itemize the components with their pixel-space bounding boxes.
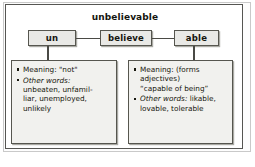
detail-continuation-line: “capable of being” xyxy=(140,84,228,93)
diagram-border: unbelievable un believe able Meaning: "n… xyxy=(5,4,243,149)
detail-continuation-line: unlikely xyxy=(23,104,112,113)
detail-value: likable, xyxy=(187,94,215,103)
word-part-label-prefix: un xyxy=(46,33,59,43)
connector-suffix-to-detail xyxy=(193,46,195,60)
detail-label: Meaning: xyxy=(140,65,174,74)
detail-label: Meaning: xyxy=(23,65,57,74)
detail-continuation-line: adjectives) xyxy=(140,74,228,83)
diagram-title: unbelievable xyxy=(6,12,244,23)
word-part-label-root: believe xyxy=(108,33,144,43)
detail-box-suffix: Meaning: (forms adjectives) “capable of … xyxy=(128,60,233,144)
detail-value: "not" xyxy=(57,65,78,74)
connector-root-to-suffix xyxy=(152,38,174,40)
detail-continuation-line: lovable, tolerable xyxy=(140,104,228,113)
detail-box-prefix: Meaning: "not" Other words: unbeaten, un… xyxy=(11,60,117,144)
list-item: Meaning: (forms adjectives) “capable of … xyxy=(133,65,228,93)
detail-label: Other words: xyxy=(140,94,187,103)
detail-list-prefix: Meaning: "not" Other words: unbeaten, un… xyxy=(16,65,112,113)
list-item: Other words: likable, lovable, tolerable xyxy=(133,94,228,113)
connector-prefix-to-root xyxy=(76,38,100,40)
list-item: Other words: unbeaten, unfamil- liar, un… xyxy=(16,76,112,113)
detail-label: Other words: xyxy=(23,76,70,85)
detail-continuation-line: unbeaten, unfamil- xyxy=(23,85,112,94)
word-part-label-suffix: able xyxy=(186,33,207,43)
connector-prefix-to-detail xyxy=(47,46,49,60)
word-part-box-root: believe xyxy=(100,30,152,46)
word-part-box-suffix: able xyxy=(174,30,219,46)
detail-list-suffix: Meaning: (forms adjectives) “capable of … xyxy=(133,65,228,113)
list-item: Meaning: "not" xyxy=(16,65,112,74)
detail-value: (forms xyxy=(174,65,200,74)
detail-continuation-line: liar, unemployed, xyxy=(23,94,112,103)
word-part-box-prefix: un xyxy=(28,30,76,46)
word-parts-diagram: unbelievable un believe able Meaning: "n… xyxy=(0,0,255,167)
